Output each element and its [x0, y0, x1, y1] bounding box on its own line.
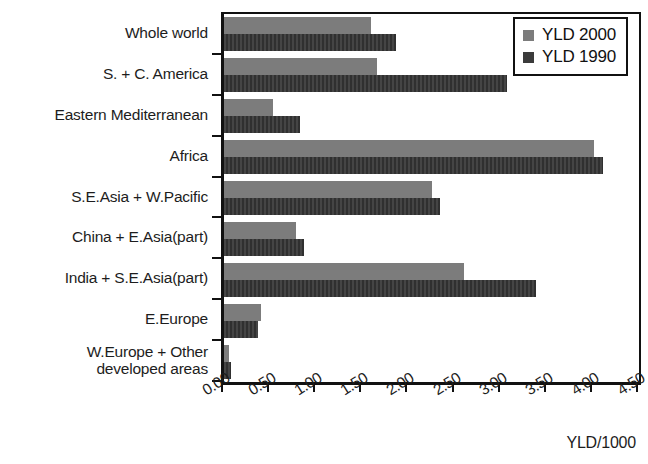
bar-yld-2000 [224, 345, 229, 362]
y-axis-tick [212, 53, 221, 55]
category-axis-labels: Whole worldS. + C. AmericaEastern Medite… [0, 12, 214, 380]
bar-yld-1990 [224, 34, 396, 51]
legend-item: YLD 1990 [523, 46, 616, 68]
bar-yld-2000 [224, 222, 296, 239]
bar-yld-2000 [224, 99, 273, 116]
y-axis-tick [212, 94, 221, 96]
legend-item: YLD 2000 [523, 24, 616, 46]
bar-yld-1990 [224, 157, 603, 174]
legend-swatch-icon-yld-2000 [523, 30, 534, 41]
bar-yld-1990 [224, 75, 507, 92]
bar-yld-1990 [224, 239, 304, 256]
y-axis-tick [212, 257, 221, 259]
bar-yld-2000 [224, 140, 594, 157]
legend-label-yld-1990: YLD 1990 [542, 47, 616, 67]
y-axis-tick [212, 216, 221, 218]
category-label: Eastern Mediterranean [55, 106, 208, 123]
bar-yld-2000 [224, 263, 464, 280]
category-label: Africa [170, 147, 208, 164]
chart-legend: YLD 2000 YLD 1990 [513, 17, 628, 76]
category-label: S. + C. America [103, 65, 208, 82]
y-axis-tick [212, 135, 221, 137]
bar-yld-2000 [224, 304, 261, 321]
y-axis-tick [212, 298, 221, 300]
legend-swatch-icon-yld-1990 [523, 52, 534, 63]
y-axis-tick [212, 176, 221, 178]
bar-yld-1990 [224, 321, 258, 338]
bar-yld-2000 [224, 58, 377, 75]
category-label: China + E.Asia(part) [72, 228, 208, 245]
category-label: India + S.E.Asia(part) [65, 269, 208, 286]
category-label: W.Europe + Other developed areas [87, 343, 208, 377]
category-label: S.E.Asia + W.Pacific [71, 188, 208, 205]
x-axis-title: YLD/1000 [566, 434, 636, 452]
bar-yld-2000 [224, 17, 371, 34]
y-axis-tick [212, 339, 221, 341]
category-label: Whole world [125, 24, 208, 41]
category-label: E.Europe [145, 310, 208, 327]
bar-yld-1990 [224, 280, 536, 297]
legend-label-yld-2000: YLD 2000 [542, 25, 616, 45]
bar-yld-1990 [224, 198, 440, 215]
bar-yld-1990 [224, 116, 300, 133]
bar-yld-2000 [224, 181, 432, 198]
